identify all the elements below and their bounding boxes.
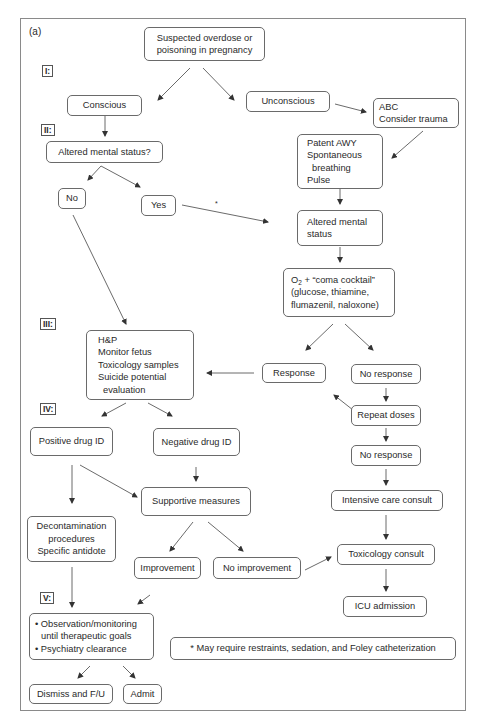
node-conscious: Conscious — [67, 95, 142, 116]
node-text: Altered mental status? — [58, 146, 151, 158]
node-text: poisoning in pregnancy — [157, 44, 253, 56]
node-text: Patent AWY — [307, 137, 357, 149]
node-suspected-overdose: Suspected overdose or poisoning in pregn… — [144, 27, 265, 61]
node-text: No improvement — [223, 562, 291, 574]
node-text: No response — [360, 368, 413, 380]
node-text: Conscious — [83, 99, 126, 111]
node-text: • Observation/monitoring — [35, 618, 137, 630]
node-altered-mental-status-question: Altered mental status? — [46, 141, 163, 163]
node-text: ICU admission — [355, 600, 415, 612]
node-improvement: Improvement — [134, 557, 201, 579]
node-text: Positive drug ID — [39, 435, 105, 447]
node-text: Toxicology samples — [98, 359, 179, 371]
node-toxicology-consult: Toxicology consult — [337, 544, 435, 565]
node-text: breathing — [307, 162, 351, 174]
node-dismiss-follow-up: Dismiss and F/U — [29, 684, 113, 704]
node-yes: Yes — [141, 195, 176, 216]
node-text: procedures — [48, 533, 95, 545]
node-repeat-doses: Repeat doses — [351, 405, 421, 426]
node-text: Monitor fetus — [98, 346, 152, 358]
footnote-text: * May require restraints, sedation, and … — [190, 642, 435, 654]
node-text: • Psychiatry clearance — [35, 643, 127, 655]
node-response: Response — [262, 363, 326, 383]
node-text: O2 + “coma cocktail” — [291, 274, 375, 286]
node-no: No — [58, 188, 86, 209]
node-text: Suspected overdose or — [157, 32, 253, 44]
node-admit: Admit — [123, 684, 162, 704]
footnote-box: * May require restraints, sedation, and … — [170, 637, 456, 660]
node-text: Suicide potential — [98, 371, 166, 383]
node-text: Specific antidote — [37, 545, 105, 557]
node-text: Response — [273, 367, 315, 379]
node-text: Decontamination — [37, 520, 107, 532]
asterisk-marker: * — [215, 200, 218, 207]
node-text: H&P — [98, 334, 117, 346]
node-history-physical: H&P Monitor fetus Toxicology samples Sui… — [86, 330, 194, 400]
node-text: Toxicology consult — [348, 548, 423, 560]
node-text: flumazenil, naloxone) — [291, 299, 379, 311]
node-supportive-measures: Supportive measures — [141, 487, 251, 516]
node-text: Repeat doses — [357, 409, 414, 421]
node-text: No — [66, 192, 78, 204]
node-text: Intensive care consult — [342, 494, 432, 506]
node-text: status — [307, 228, 332, 240]
node-negative-drug-id: Negative drug ID — [153, 428, 240, 456]
node-text: Dismiss and F/U — [37, 688, 105, 700]
node-text: Improvement — [140, 562, 194, 574]
node-text: (glucose, thiamine, — [291, 286, 369, 298]
node-altered-mental-status: Altered mental status — [297, 210, 383, 246]
node-text: evaluation — [98, 384, 145, 396]
node-text: Negative drug ID — [162, 436, 232, 448]
node-text: No response — [360, 449, 413, 461]
node-text: Spontaneous — [307, 149, 362, 161]
node-observation-monitoring: • Observation/monitoring until therapeut… — [29, 613, 154, 660]
node-text: Unconscious — [261, 95, 314, 107]
node-patent-airway: Patent AWY Spontaneous breathing Pulse — [297, 134, 383, 189]
node-no-improvement: No improvement — [213, 557, 301, 579]
node-text: Altered mental — [307, 216, 367, 228]
node-text: Supportive measures — [152, 495, 240, 507]
node-text: Consider trauma — [379, 113, 448, 125]
node-text: until therapeutic goals — [35, 630, 131, 642]
node-decontamination: Decontamination procedures Specific anti… — [27, 516, 116, 562]
node-no-response-2: No response — [351, 445, 421, 466]
node-positive-drug-id: Positive drug ID — [30, 427, 113, 456]
node-text: Admit — [131, 688, 155, 700]
node-icu-admission: ICU admission — [343, 596, 427, 617]
node-text: ABC — [379, 101, 398, 113]
node-coma-cocktail: O2 + “coma cocktail” (glucose, thiamine,… — [283, 268, 395, 317]
node-text: Pulse — [307, 174, 330, 186]
node-abc: ABC Consider trauma — [373, 98, 459, 128]
node-no-response-1: No response — [351, 364, 421, 384]
node-intensive-care-consult: Intensive care consult — [331, 490, 443, 511]
node-text: Yes — [151, 199, 166, 211]
node-unconscious: Unconscious — [246, 91, 330, 112]
